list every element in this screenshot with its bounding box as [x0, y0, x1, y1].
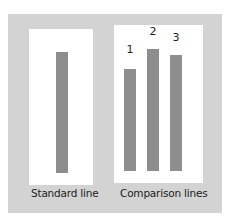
- comparison-line-3-number: 3: [170, 32, 182, 43]
- comparison-line-2-number: 2: [147, 26, 159, 37]
- comparison-lines-label: Comparison lines: [120, 187, 207, 199]
- comparison-lines-card: 1 2 3: [114, 25, 203, 183]
- comparison-line-1-bar: [124, 69, 136, 171]
- comparison-line-1-number: 1: [124, 44, 136, 55]
- comparison-line-3-bar: [170, 55, 182, 171]
- standard-line-card: [29, 29, 93, 185]
- comparison-line-2-bar: [147, 49, 159, 171]
- standard-line-label: Standard line: [31, 187, 98, 199]
- diagram-frame: 1 2 3 Standard line Comparison lines: [8, 14, 222, 213]
- standard-line-bar: [56, 52, 68, 173]
